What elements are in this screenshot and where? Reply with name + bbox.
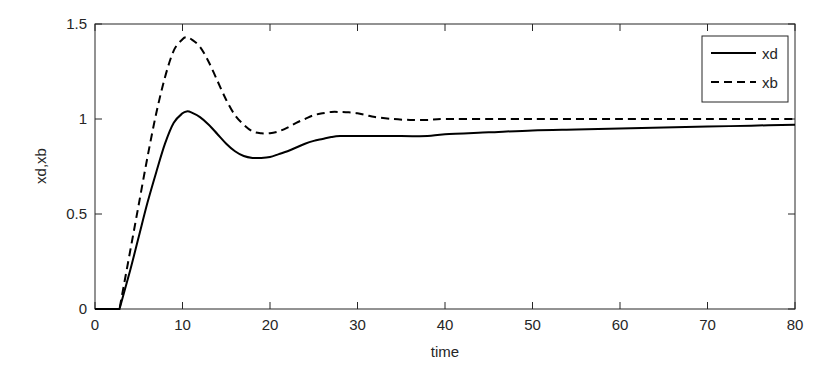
- x-axis-label: time: [431, 343, 459, 360]
- legend-label-xd: xd: [762, 45, 778, 62]
- x-tick-label: 40: [437, 316, 454, 333]
- y-tick-label: 0.5: [66, 205, 87, 222]
- x-tick-label: 10: [174, 316, 191, 333]
- line-chart: 01020304050607080 00.511.5 time xd,xb xd…: [0, 0, 833, 387]
- y-tick-label: 1: [79, 110, 87, 127]
- y-tick-label: 1.5: [66, 15, 87, 32]
- x-tick-label: 50: [524, 316, 541, 333]
- x-tick-label: 0: [91, 316, 99, 333]
- plot-area: [95, 24, 795, 309]
- legend: xd xb: [702, 36, 788, 102]
- y-axis-label: xd,xb: [32, 148, 49, 184]
- x-tick-label: 80: [787, 316, 804, 333]
- x-tick-label: 60: [612, 316, 629, 333]
- y-tick-label: 0: [79, 300, 87, 317]
- x-tick-label: 20: [262, 316, 279, 333]
- x-tick-label: 30: [349, 316, 366, 333]
- legend-label-xb: xb: [762, 74, 778, 91]
- x-tick-label: 70: [699, 316, 716, 333]
